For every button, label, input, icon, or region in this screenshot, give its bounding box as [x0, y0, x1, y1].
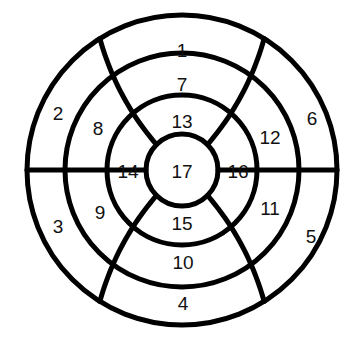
cell-label-12: 12 — [259, 128, 280, 147]
cell-label-9: 9 — [95, 203, 106, 222]
cell-label-15: 15 — [171, 214, 192, 233]
cell-label-13: 13 — [171, 112, 192, 131]
cell-label-2: 2 — [53, 104, 64, 123]
cell-label-7: 7 — [177, 75, 188, 94]
cell-label-4: 4 — [178, 294, 189, 313]
cell-label-6: 6 — [307, 109, 318, 128]
cell-label-8: 8 — [93, 119, 104, 138]
cell-label-16: 16 — [227, 162, 248, 181]
ring-diagram-canvas: 1234567891011121314151617 — [0, 0, 356, 341]
cell-label-1: 1 — [177, 41, 188, 60]
cell-label-3: 3 — [53, 217, 64, 236]
cell-label-17: 17 — [171, 162, 192, 181]
cell-label-14: 14 — [117, 162, 138, 181]
cell-label-5: 5 — [306, 227, 317, 246]
cell-label-11: 11 — [260, 199, 280, 218]
cell-label-10: 10 — [172, 253, 193, 272]
